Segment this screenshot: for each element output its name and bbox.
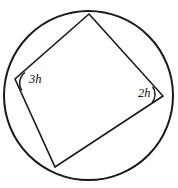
- geometry-figure: 3h 2h: [0, 0, 178, 188]
- angle-label-left: 3h: [29, 73, 42, 86]
- angle-arc-right: [152, 87, 155, 103]
- angle-label-right: 2h: [138, 87, 151, 100]
- geometry-canvas: [0, 0, 178, 188]
